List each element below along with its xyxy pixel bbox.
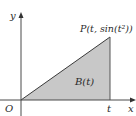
region-b-label: B(t) xyxy=(74,76,94,87)
diagram-canvas: y P(t, sin(t²)) B(t) O t x xyxy=(0,0,136,116)
x-tick-label-t: t xyxy=(107,103,112,114)
origin-label: O xyxy=(5,103,13,114)
x-axis-arrow-icon xyxy=(130,98,136,103)
y-axis-arrow-icon xyxy=(19,12,24,18)
point-p-label: P(t, sin(t²)) xyxy=(79,23,133,34)
x-axis-label: x xyxy=(128,103,134,114)
y-axis-label: y xyxy=(9,10,16,21)
